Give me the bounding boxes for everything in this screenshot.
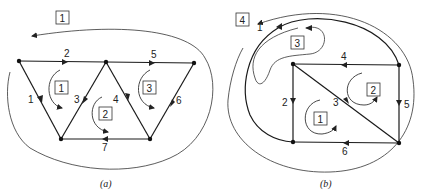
node	[192, 61, 196, 65]
node	[291, 140, 295, 144]
mesh-box-outer: 1	[56, 11, 69, 24]
arrow-icon	[396, 100, 402, 106]
svg-text:3: 3	[147, 83, 153, 94]
branch-label-7: 7	[102, 142, 108, 153]
node	[397, 141, 401, 145]
branch-label-2: 2	[64, 48, 70, 59]
diagram-b: 1 2 3 4 5 6 4 3 2 1 (b)	[228, 13, 414, 190]
svg-text:2: 2	[103, 109, 109, 120]
node	[291, 62, 295, 66]
branch-label-3: 3	[74, 94, 80, 105]
circuit-mesh-diagrams: 2 5 1 3 4 6 7 1 1 2 3 (a)	[0, 0, 421, 195]
mesh-box-3-b: 3	[291, 36, 304, 49]
mesh-box-2: 2	[99, 107, 112, 120]
node	[17, 59, 21, 63]
svg-text:1: 1	[59, 83, 65, 94]
mesh-loop-4-contour	[228, 48, 414, 172]
node	[59, 137, 63, 141]
arrow-icon	[82, 96, 88, 104]
node	[104, 60, 108, 64]
svg-text:2: 2	[371, 85, 377, 96]
branch-label-6: 6	[176, 95, 182, 106]
branch-label-6-b: 6	[342, 146, 348, 157]
svg-text:1: 1	[318, 114, 324, 125]
branch-label-2-b: 2	[282, 97, 288, 108]
branch-label-1-b: 1	[257, 22, 263, 33]
arrow-icon	[290, 98, 296, 104]
mesh-box-2-b: 2	[367, 83, 380, 96]
branch-label-3-b: 3	[333, 97, 339, 108]
svg-text:3: 3	[295, 38, 301, 49]
mesh-box-4-b: 4	[236, 13, 249, 26]
svg-text:4: 4	[240, 15, 246, 26]
branch-label-1: 1	[28, 94, 34, 105]
branch-label-5-b: 5	[404, 99, 410, 110]
mesh-box-3: 3	[143, 81, 156, 94]
mesh-box-1: 1	[55, 81, 68, 94]
arrow-icon	[149, 60, 155, 66]
branch-label-4-b: 4	[341, 51, 347, 62]
arrow-icon	[305, 25, 312, 31]
mesh-loop-3-b	[253, 27, 325, 84]
caption-b: (b)	[320, 178, 332, 190]
mesh-box-1-b: 1	[314, 112, 327, 125]
caption-a: (a)	[100, 178, 112, 190]
outer-mesh-loop-a	[32, 29, 205, 58]
branch-3-b	[293, 64, 399, 143]
arrow-icon	[62, 59, 68, 65]
node	[397, 63, 401, 67]
branch-label-4: 4	[113, 94, 119, 105]
branch-label-5: 5	[151, 49, 157, 60]
mesh-loop-4	[258, 13, 413, 80]
arrow-icon	[341, 62, 347, 68]
diagram-a: 2 5 1 3 4 6 7 1 1 2 3 (a)	[7, 11, 212, 190]
node	[148, 137, 152, 141]
svg-text:1: 1	[60, 13, 66, 24]
